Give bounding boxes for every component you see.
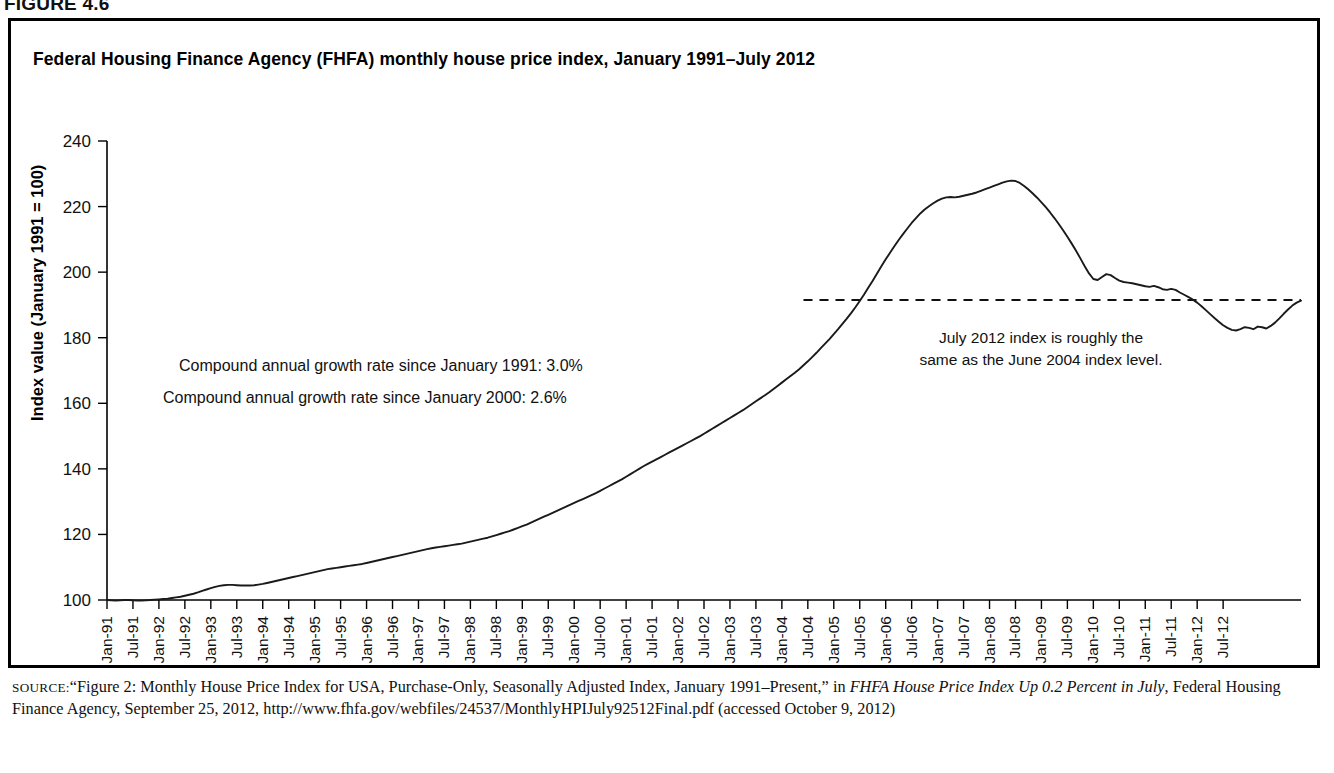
x-axis-tick-label: Jan-97 <box>409 616 426 663</box>
y-axis-tick-label: 160 <box>63 394 91 413</box>
x-axis-tick-label: Jul-10 <box>1110 616 1127 659</box>
y-axis-tick-label: 240 <box>63 132 91 151</box>
x-axis-tick-label: Jan-06 <box>877 616 894 663</box>
x-axis-tick-label: Jan-93 <box>202 616 219 663</box>
y-axis-tick-label: 200 <box>63 263 91 282</box>
y-axis-tick-label: 220 <box>63 198 91 217</box>
x-axis-tick-label: Jan-94 <box>254 616 271 664</box>
source-text-part1: “Figure 2: Monthly House Price Index for… <box>70 677 850 696</box>
x-axis-tick-label: Jan-07 <box>929 616 946 663</box>
y-axis-title: Index value (January 1991 = 100) <box>28 165 46 421</box>
x-axis-tick-label: Jan-09 <box>1032 616 1049 663</box>
annotation-reference-note-line2: same as the June 2004 index level. <box>920 351 1163 368</box>
figure-number: FIGURE 4.6 <box>4 0 109 15</box>
x-axis-tick-label: Jan-10 <box>1084 616 1101 664</box>
x-axis-tick-label: Jul-12 <box>1214 616 1231 658</box>
x-axis-tick-label: Jan-12 <box>1188 616 1205 663</box>
x-axis-tick-label: Jul-07 <box>955 616 972 658</box>
x-axis-tick-label: Jan-04 <box>773 616 790 664</box>
source-label: SOURCE: <box>12 680 70 695</box>
x-axis-tick-label: Jul-92 <box>176 616 193 658</box>
x-axis-tick-label: Jan-91 <box>98 616 115 663</box>
annotation-reference-note-line1: July 2012 index is roughly the <box>939 329 1143 346</box>
x-axis-tick-label: Jan-92 <box>150 616 167 663</box>
x-axis-tick-label: Jan-01 <box>617 616 634 663</box>
figure-box: Federal Housing Finance Agency (FHFA) mo… <box>8 18 1320 668</box>
x-axis-tick-label: Jul-02 <box>695 616 712 658</box>
source-note: SOURCE:“Figure 2: Monthly House Price In… <box>12 676 1328 719</box>
house-price-index-line-chart: Index value (January 1991 = 100) 1001201… <box>11 21 1323 671</box>
x-axis-tick-label: Jul-11 <box>1162 616 1179 657</box>
x-axis-tick-label: Jul-09 <box>1058 616 1075 658</box>
chart-plot-area: Index value (January 1991 = 100) 1001201… <box>11 21 1323 671</box>
x-axis-tick-label: Jan-08 <box>981 616 998 663</box>
x-axis-tick-label: Jul-91 <box>124 616 141 658</box>
y-axis-tick-label: 140 <box>63 460 91 479</box>
x-axis-tick-label: Jul-97 <box>435 616 452 658</box>
y-axis-tick-label: 100 <box>63 591 91 610</box>
x-axis-tick-label: Jul-99 <box>539 616 556 658</box>
y-axis-tick-label: 180 <box>63 329 91 348</box>
x-axis-tick-label: Jan-03 <box>721 616 738 663</box>
x-axis-tick-label: Jan-98 <box>461 616 478 663</box>
x-axis-tick-label: Jul-98 <box>487 616 504 658</box>
x-axis-tick-label: Jan-05 <box>825 616 842 663</box>
annotation-cagr-2000: Compound annual growth rate since Januar… <box>163 389 567 406</box>
x-axis-tick-label: Jul-05 <box>851 616 868 658</box>
x-axis-tick-label: Jul-94 <box>280 616 297 659</box>
x-axis-tick-label: Jan-00 <box>565 616 582 664</box>
x-axis-tick-label: Jul-06 <box>903 616 920 658</box>
x-axis-tick-label: Jul-00 <box>591 616 608 659</box>
x-axis-tick-label: Jan-95 <box>306 616 323 663</box>
x-axis-ticks: Jan-91Jul-91Jan-92Jul-92Jan-93Jul-93Jan-… <box>98 600 1231 663</box>
x-axis-tick-label: Jul-95 <box>332 616 349 658</box>
x-axis-tick-label: Jul-93 <box>228 616 245 658</box>
x-axis-tick-label: Jan-02 <box>669 616 686 663</box>
y-axis-tick-label: 120 <box>63 525 91 544</box>
y-axis-ticks: 100120140160180200220240 <box>63 132 107 610</box>
x-axis-tick-label: Jan-11 <box>1136 616 1153 662</box>
x-axis-tick-label: Jul-03 <box>747 616 764 658</box>
x-axis-tick-label: Jan-96 <box>358 616 375 663</box>
source-italic-title: FHFA House Price Index Up 0.2 Percent in… <box>850 677 1165 696</box>
annotation-cagr-1991: Compound annual growth rate since Januar… <box>179 357 583 374</box>
x-axis-tick-label: Jul-01 <box>643 616 660 658</box>
x-axis-tick-label: Jan-99 <box>513 616 530 663</box>
x-axis-tick-label: Jul-04 <box>799 616 816 659</box>
x-axis-tick-label: Jul-96 <box>384 616 401 658</box>
x-axis-tick-label: Jul-08 <box>1006 616 1023 658</box>
